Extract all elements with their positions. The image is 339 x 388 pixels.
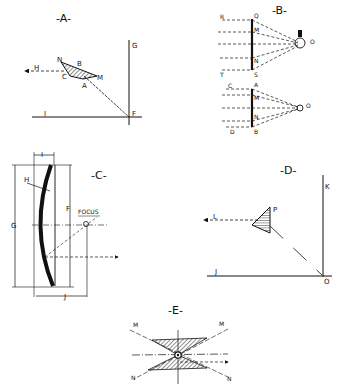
label-f: F: [66, 205, 70, 213]
label-g: G: [132, 42, 137, 50]
label-h: H: [34, 64, 39, 72]
label-m: M: [254, 26, 259, 33]
figure-a: -A- G H N B C M A I F: [25, 12, 142, 125]
label-q: Q: [254, 12, 259, 19]
label-d: D: [230, 128, 235, 135]
label-t: T: [219, 71, 224, 78]
label-l: L: [213, 213, 217, 221]
figure-d-title: -D-: [280, 164, 296, 177]
diagram-canvas: -A- G H N B C M A I F -B-: [0, 0, 339, 388]
label-h: H: [24, 176, 29, 184]
figure-d: -D- K L P J O: [204, 164, 332, 286]
curved-mirror: [40, 165, 53, 286]
figure-a-title: -A-: [56, 12, 71, 25]
label-a: A: [254, 81, 259, 88]
label-j: J: [63, 293, 66, 301]
label-n: N: [254, 113, 259, 120]
label-b: B: [77, 60, 82, 68]
label-m: M: [219, 320, 224, 327]
label-m: M: [254, 94, 259, 101]
label-s: S: [254, 71, 258, 78]
label-i: I: [44, 110, 46, 118]
figure-e-title: -E-: [168, 304, 183, 317]
label-a: A: [82, 82, 87, 90]
label-n: N: [131, 374, 136, 381]
label-o: O: [324, 278, 330, 286]
figure-b-title: -B-: [272, 4, 287, 17]
prism-p: [252, 207, 270, 233]
label-n: N: [254, 57, 259, 64]
label-c: C: [228, 82, 232, 89]
label-p: P: [273, 206, 277, 214]
label-k: K: [325, 183, 330, 191]
incident-ray: [270, 226, 322, 275]
label-n: N: [57, 56, 62, 64]
label-r: R: [220, 13, 224, 20]
label-b: B: [254, 128, 258, 135]
figure-c-title: -C-: [91, 169, 107, 182]
figure-e: -E- M M N N: [130, 304, 232, 384]
label-o: O: [310, 38, 315, 45]
label-n: N: [227, 375, 232, 382]
label-focus: FOCUS: [78, 208, 99, 215]
label-c: C: [62, 73, 67, 81]
label-i: I: [41, 151, 43, 159]
label-m: M: [97, 74, 103, 82]
label-j: J: [214, 268, 217, 276]
figure-c: -C- I G F H FOCUS J: [11, 151, 118, 301]
figure-b: -B- R Q M N T S O: [218, 4, 315, 135]
focus-ray: [45, 217, 97, 257]
label-o: O: [306, 102, 311, 109]
label-g: G: [11, 222, 16, 230]
label-m: M: [133, 321, 138, 328]
incident-ray: [84, 76, 129, 117]
label-f: F: [132, 110, 136, 118]
